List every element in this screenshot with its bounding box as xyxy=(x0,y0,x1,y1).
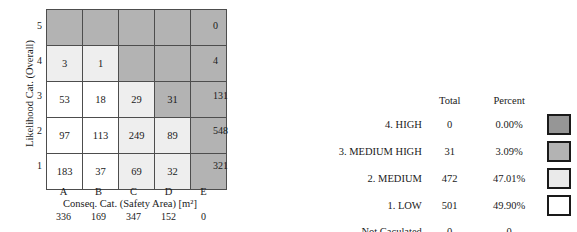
legend-percent: 49.90% xyxy=(478,192,541,219)
legend-total: 31 xyxy=(422,138,478,165)
legend-header-label xyxy=(296,95,422,111)
matrix-row: 9711324989 xyxy=(47,118,227,154)
matrix-cell-D5 xyxy=(155,10,191,46)
legend-total: 0 xyxy=(422,111,478,138)
row-total-1: 321 xyxy=(213,160,228,171)
column-label-B: B xyxy=(81,186,116,197)
legend-label: 1. LOW xyxy=(296,192,422,219)
legend-header-total: Total xyxy=(422,95,478,111)
legend-header-percent: Percent xyxy=(478,95,541,111)
matrix-cell-B3: 18 xyxy=(83,82,119,118)
legend-swatch-cell xyxy=(541,165,577,192)
matrix-cell-B5 xyxy=(83,10,119,46)
legend-row: 1. LOW50149.90% xyxy=(296,192,577,219)
column-label-D: D xyxy=(151,186,186,197)
risk-matrix-chart: Likelihood Cat. (Overall) 31531829319711… xyxy=(0,0,290,232)
matrix-cell-D4 xyxy=(155,46,191,82)
row-label-3: 3 xyxy=(30,90,42,101)
matrix-cell-C3: 29 xyxy=(119,82,155,118)
matrix-row xyxy=(47,10,227,46)
legend-header-swatch xyxy=(541,95,577,111)
legend-table: Total Percent 4. HIGH00.00%3. MEDIUM HIG… xyxy=(296,95,577,232)
matrix-cell-A4: 3 xyxy=(47,46,83,82)
legend-percent: 47.01% xyxy=(478,165,541,192)
legend-color-swatch xyxy=(547,114,571,135)
legend-label: 4. HIGH xyxy=(296,111,422,138)
legend-header-row: Total Percent xyxy=(296,95,577,111)
matrix-cell-A1: 183 xyxy=(47,154,83,190)
legend-row: 4. HIGH00.00% xyxy=(296,111,577,138)
matrix-cell-E1 xyxy=(191,154,227,190)
column-label-C: C xyxy=(116,186,151,197)
row-total-2: 548 xyxy=(213,125,228,136)
matrix-cell-E4 xyxy=(191,46,227,82)
row-label-4: 4 xyxy=(30,55,42,66)
matrix-cell-D1: 32 xyxy=(155,154,191,190)
legend-total: 472 xyxy=(422,165,478,192)
matrix-cell-D3: 31 xyxy=(155,82,191,118)
matrix-cell-D2: 89 xyxy=(155,118,191,154)
legend-swatch-cell xyxy=(541,192,577,219)
matrix-cell-A5 xyxy=(47,10,83,46)
legend-label: 2. MEDIUM xyxy=(296,165,422,192)
column-total-B: 169 xyxy=(81,211,116,222)
legend-label: 3. MEDIUM HIGH xyxy=(296,138,422,165)
matrix-cell-E5 xyxy=(191,10,227,46)
matrix-cell-A2: 97 xyxy=(47,118,83,154)
legend-color-swatch xyxy=(547,168,571,189)
row-label-2: 2 xyxy=(30,125,42,136)
legend-swatch-cell xyxy=(541,111,577,138)
row-label-5: 5 xyxy=(30,20,42,31)
matrix-cell-C4 xyxy=(119,46,155,82)
legend-swatch-cell xyxy=(541,138,577,165)
matrix-cell-B1: 37 xyxy=(83,154,119,190)
row-label-1: 1 xyxy=(30,160,42,171)
legend-color-swatch xyxy=(547,141,571,162)
matrix-cell-C5 xyxy=(119,10,155,46)
matrix-row: 183376932 xyxy=(47,154,227,190)
legend-row: 3. MEDIUM HIGH313.09% xyxy=(296,138,577,165)
legend-swatch-cell xyxy=(541,219,577,232)
legend-row: Not Caculated00 xyxy=(296,219,577,232)
legend-total: 501 xyxy=(422,192,478,219)
row-total-4: 4 xyxy=(213,55,218,66)
legend-total: 0 xyxy=(422,219,478,232)
legend-percent: 3.09% xyxy=(478,138,541,165)
matrix-cell-B2: 113 xyxy=(83,118,119,154)
matrix-table: 31531829319711324989183376932 xyxy=(46,9,227,190)
matrix-grid: 31531829319711324989183376932 xyxy=(46,9,227,190)
legend-panel: Total Percent 4. HIGH00.00%3. MEDIUM HIG… xyxy=(290,0,577,232)
legend-percent: 0.00% xyxy=(478,111,541,138)
matrix-row: 31 xyxy=(47,46,227,82)
legend-label: Not Caculated xyxy=(296,219,422,232)
matrix-cell-C2: 249 xyxy=(119,118,155,154)
row-total-5: 0 xyxy=(213,20,218,31)
matrix-cell-B4: 1 xyxy=(83,46,119,82)
column-total-A: 336 xyxy=(46,211,81,222)
matrix-cell-C1: 69 xyxy=(119,154,155,190)
legend-color-swatch xyxy=(547,195,571,216)
column-total-D: 152 xyxy=(151,211,186,222)
column-total-E: 0 xyxy=(186,211,221,222)
column-label-A: A xyxy=(46,186,81,197)
column-total-C: 347 xyxy=(116,211,151,222)
column-label-E: E xyxy=(186,186,221,197)
legend-percent: 0 xyxy=(478,219,541,232)
x-axis-title: Conseq. Cat. (Safety Area) [m²] xyxy=(30,198,230,209)
legend-row: 2. MEDIUM47247.01% xyxy=(296,165,577,192)
matrix-cell-A3: 53 xyxy=(47,82,83,118)
row-total-3: 131 xyxy=(213,90,228,101)
matrix-row: 53182931 xyxy=(47,82,227,118)
